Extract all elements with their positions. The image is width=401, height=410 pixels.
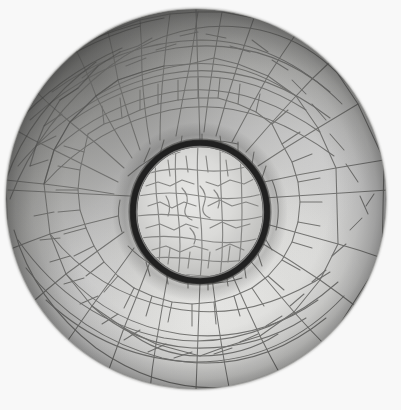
ceramic-vessel-photograph xyxy=(0,0,401,410)
film-grain xyxy=(0,0,401,410)
image-canvas: Overhead grayscale photograph of a round… xyxy=(0,0,401,410)
